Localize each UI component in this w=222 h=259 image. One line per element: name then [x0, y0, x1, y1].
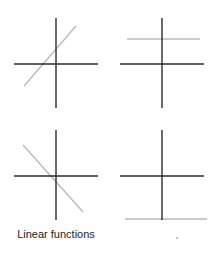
linear-functions-diagram — [0, 0, 222, 259]
panel-decreasing — [14, 130, 98, 220]
stray-dot — [176, 237, 178, 239]
caption: Linear functions — [4, 228, 108, 240]
panel-increasing — [14, 18, 98, 108]
panel-constant-positive — [120, 18, 204, 108]
function-line — [23, 145, 83, 212]
function-line — [24, 26, 76, 86]
panel-constant-negative — [120, 130, 207, 220]
